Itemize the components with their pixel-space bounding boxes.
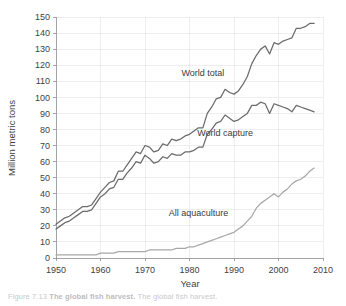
y-axis-title: Million metric tons [6, 100, 17, 176]
figure-container: 0102030405060708090100110120130140150 19… [0, 0, 346, 306]
x-tick-label: 1980 [179, 265, 199, 275]
y-tick-label: 120 [35, 60, 50, 70]
y-tick-label: 50 [40, 173, 50, 183]
x-tick-label: 2010 [313, 265, 333, 275]
annotation-all-aquaculture: All aquaculture [169, 208, 229, 218]
y-tick-label: 100 [35, 93, 50, 103]
chart-background [0, 0, 346, 292]
x-tick-label: 1990 [224, 265, 244, 275]
y-tick-label: 110 [36, 76, 50, 86]
x-tick-label: 1970 [135, 265, 155, 275]
y-tick-label: 30 [40, 205, 50, 215]
y-tick-label: 140 [35, 28, 50, 38]
annotation-world-total: World total [181, 68, 224, 78]
fish-harvest-line-chart: 0102030405060708090100110120130140150 19… [0, 0, 346, 292]
y-tick-label: 0 [45, 253, 50, 263]
y-tick-label: 70 [40, 141, 50, 151]
y-tick-label: 150 [35, 12, 50, 22]
x-axis-title: Year [180, 278, 199, 289]
y-tick-label: 20 [40, 221, 50, 231]
figure-caption: Figure 7.13 The global fish harvest. The… [8, 292, 338, 306]
y-tick-label: 80 [40, 125, 50, 135]
x-tick-label: 1960 [90, 265, 110, 275]
y-tick-label: 130 [35, 44, 50, 54]
x-tick-label: 2000 [268, 265, 288, 275]
caption-title: The global fish harvest. [49, 292, 135, 301]
caption-number: Figure 7.13 [8, 292, 47, 301]
y-tick-label: 40 [40, 189, 50, 199]
caption-body: The global fish harvest. [137, 292, 217, 301]
y-tick-label: 60 [40, 157, 50, 167]
y-tick-label: 10 [40, 237, 50, 247]
annotation-world-capture: World capture [197, 128, 253, 138]
y-tick-label: 90 [40, 109, 50, 119]
x-tick-label: 1950 [46, 265, 66, 275]
